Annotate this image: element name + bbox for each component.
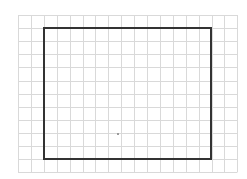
rectangle-outline [44,28,211,159]
center-dot [117,133,119,135]
grid-diagram [0,0,247,179]
grid-lines [18,15,238,173]
